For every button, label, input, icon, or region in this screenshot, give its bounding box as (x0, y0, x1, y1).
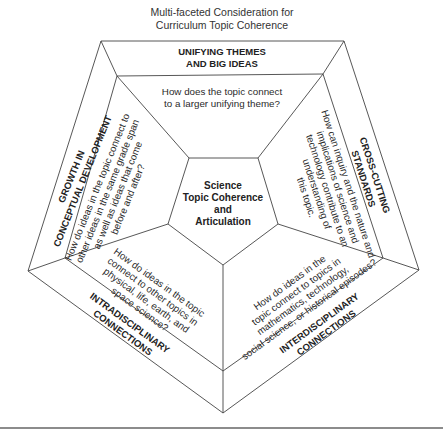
spoke-outer-top-right (323, 41, 344, 74)
diagram-title-line-1: Multi-faceted Consideration for (151, 6, 294, 18)
section-question-line-2: to a larger unifying theme? (164, 98, 281, 109)
center-label: Science Topic Coherence and Articulation (183, 180, 264, 227)
section-heading-line-2: AND BIG IDEAS (186, 58, 258, 69)
section-unifying-themes: UNIFYING THEMES AND BIG IDEAS How does t… (162, 46, 283, 109)
section-question-line-1: How does the topic connect (162, 86, 283, 97)
center-line-2: Topic Coherence (183, 192, 264, 203)
center-line-4: Articulation (195, 216, 251, 227)
section-heading-line-1: UNIFYING THEMES (178, 46, 266, 57)
center-line-1: Science (204, 180, 242, 191)
spoke-outer-right (383, 258, 419, 270)
diagram-title-line-2: Curriculum Topic Coherence (156, 19, 288, 31)
spoke-outer-top-left (101, 41, 117, 76)
section-intradisciplinary-connections: How do ideas in the topic connect to oth… (75, 246, 207, 369)
section-cross-cutting-standards: CROSS-CUTTING STANDARDS How can inquiry … (277, 100, 404, 273)
coherence-diagram: Multi-faceted Consideration for Curricul… (0, 0, 443, 444)
section-growth-conceptual-development: GROWTH IN CONCEPTUAL DEVELOPMENT How do … (37, 101, 163, 274)
spoke-outer-left (28, 258, 65, 271)
center-line-3: and (214, 204, 232, 215)
